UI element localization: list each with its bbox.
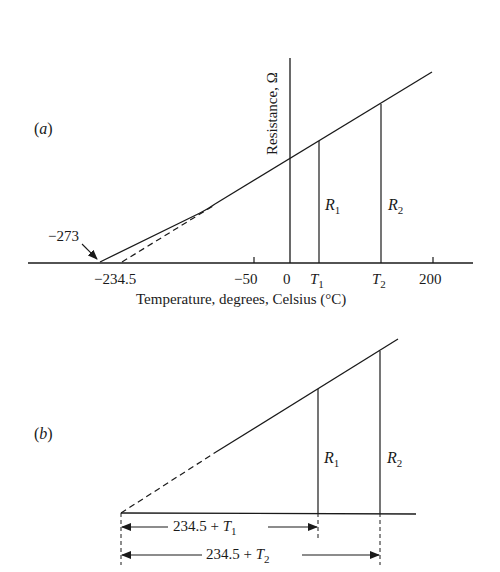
r1-letter: R: [325, 196, 335, 213]
r2-label-b: R2: [387, 450, 402, 469]
r2-subscript: 2: [398, 204, 404, 216]
r2-label-a: R2: [388, 197, 403, 216]
base-line: [121, 513, 416, 514]
x-axis-label: Temperature, degrees, Celsius (°C): [136, 292, 346, 307]
t2-subscript: 2: [380, 278, 386, 290]
abs-zero-pointer-arrow: [82, 244, 97, 259]
paren-close: ): [47, 120, 52, 137]
tick-label-200: 200: [419, 272, 442, 287]
panel-a-label: (a): [34, 121, 53, 137]
slope-dashed-segment: [121, 452, 216, 513]
dim1-letter: T: [223, 518, 231, 534]
r1-subscript: 1: [334, 457, 340, 469]
r1-label-a: R1: [325, 197, 340, 216]
resistance-line: [215, 72, 432, 204]
r1-letter: R: [324, 449, 334, 466]
r2-subscript: 2: [397, 457, 403, 469]
dim1-prefix: 234.5 +: [173, 518, 223, 534]
dimension-label-2: 234.5 + T2: [206, 547, 270, 565]
tick-label-t1: T1: [310, 272, 324, 290]
r2-letter: R: [388, 196, 398, 213]
paren-close: ): [47, 425, 52, 442]
dim2-letter: T: [256, 546, 264, 562]
t1-subscript: 1: [318, 278, 324, 290]
extrapolation-dashed-line: [122, 206, 213, 262]
tick-label-t2: T2: [372, 272, 386, 290]
actual-curve: [100, 204, 215, 262]
r1-label-b: R1: [324, 450, 339, 469]
slope-solid-segment: [216, 339, 398, 452]
dim2-subscript: 2: [264, 553, 270, 565]
panel-b-label: (b): [34, 426, 53, 442]
panel-b-graph: [121, 339, 416, 565]
r2-letter: R: [387, 449, 397, 466]
r1-subscript: 1: [335, 204, 341, 216]
dim2-prefix: 234.5 +: [206, 546, 256, 562]
tick-label-inferred-zero: −234.5: [94, 272, 136, 287]
dim1-subscript: 1: [231, 525, 237, 537]
y-axis-label-text: Resistance, Ω: [264, 72, 281, 155]
panel-a-graph: [28, 58, 473, 263]
tick-label-zero: 0: [283, 272, 291, 287]
tick-label-neg50: −50: [234, 272, 257, 287]
abs-zero-annotation: −273: [48, 229, 79, 244]
dimension-label-1: 234.5 + T1: [173, 519, 237, 537]
